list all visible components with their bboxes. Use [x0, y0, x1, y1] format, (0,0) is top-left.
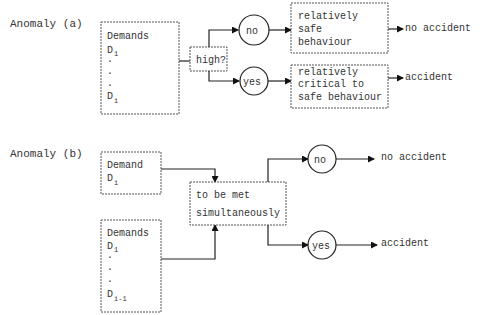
- svg-text:1: 1: [114, 50, 118, 58]
- svg-text:i-1: i-1: [114, 295, 127, 303]
- anomaly-b-title: Anomaly (b): [10, 148, 83, 160]
- svg-text:Demands: Demands: [107, 31, 149, 42]
- svg-text:Demands: Demands: [107, 228, 149, 239]
- svg-text:D: D: [107, 173, 113, 184]
- demand-di-box: Demand D i: [101, 152, 161, 194]
- arrow-from-demands: [161, 225, 215, 259]
- critical-behaviour-box: relatively critical to safe behaviour: [291, 65, 388, 108]
- arrow-from-demand-di: [161, 169, 215, 182]
- svg-text:·: ·: [107, 56, 113, 67]
- arrow-to-no-a: [209, 30, 238, 47]
- safe-behaviour-box: relatively safe behaviour: [291, 3, 388, 53]
- svg-text:no: no: [246, 26, 258, 37]
- svg-text:yes: yes: [243, 77, 261, 88]
- svg-text:no: no: [314, 155, 326, 166]
- outcome-no-accident-b: no accident: [381, 152, 447, 163]
- simultaneous-condition-box: to be met simultaneously: [190, 182, 286, 225]
- svg-text:relatively: relatively: [298, 67, 358, 78]
- svg-text:D: D: [107, 289, 113, 300]
- outcome-no-accident-a: no accident: [405, 23, 471, 34]
- svg-text:relatively: relatively: [298, 11, 358, 22]
- yes-circle-a: yes: [240, 67, 268, 95]
- arrow-to-yes-b: [268, 225, 308, 245]
- outcome-accident-b: accident: [381, 238, 429, 249]
- anomaly-a-title: Anomaly (a): [10, 18, 83, 30]
- svg-text:simultaneously: simultaneously: [196, 208, 280, 219]
- decision-box-high: high?: [190, 47, 227, 71]
- svg-text:D: D: [107, 241, 113, 252]
- svg-text:safe behaviour: safe behaviour: [298, 92, 382, 103]
- svg-text:·: ·: [107, 276, 113, 287]
- no-circle-b: no: [308, 145, 336, 173]
- svg-text:1: 1: [114, 246, 118, 254]
- svg-text:yes: yes: [312, 241, 330, 252]
- svg-text:D: D: [107, 91, 113, 102]
- outcome-accident-a: accident: [405, 72, 453, 83]
- svg-text:high?: high?: [196, 55, 226, 66]
- svg-text:D: D: [107, 45, 113, 56]
- demands-box-b: Demands D 1 · · · D i-1: [101, 220, 161, 312]
- svg-text:·: ·: [107, 252, 113, 263]
- svg-text:i: i: [114, 179, 118, 187]
- yes-circle-b: yes: [308, 231, 336, 259]
- svg-text:safe: safe: [298, 24, 322, 35]
- svg-text:·: ·: [107, 80, 113, 91]
- svg-text:critical to: critical to: [298, 79, 364, 90]
- svg-text:Demand: Demand: [107, 160, 143, 171]
- arrow-to-no-b: [268, 159, 308, 182]
- anomaly-diagram: Anomaly (a) Demands D 1 · · · D i high? …: [0, 0, 480, 315]
- arrow-to-yes-a: [209, 71, 239, 81]
- svg-text:i: i: [114, 97, 118, 105]
- svg-text:·: ·: [107, 68, 113, 79]
- svg-text:·: ·: [107, 264, 113, 275]
- demands-box-a: Demands D 1 · · · D i: [101, 22, 179, 114]
- no-circle-a: no: [239, 15, 269, 45]
- svg-text:behaviour: behaviour: [298, 37, 352, 48]
- svg-text:to be met: to be met: [196, 190, 250, 201]
